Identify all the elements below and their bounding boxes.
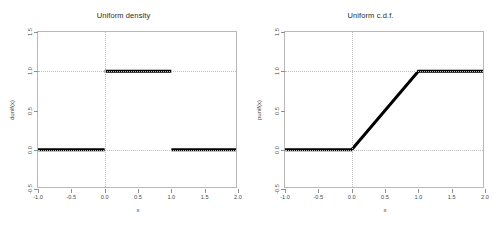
gridline-horizontal (38, 150, 236, 151)
y-axis-tick-label: 0.5 (274, 107, 280, 115)
y-axis-title: punif(x) (256, 100, 262, 120)
x-axis-tick (418, 189, 419, 193)
y-axis-tick-label: 1.5 (274, 28, 280, 36)
x-axis-tick-label: -1.0 (33, 194, 43, 200)
y-axis-tick-label: 0.0 (27, 146, 33, 154)
x-axis-tick (352, 189, 353, 193)
x-axis-tick (138, 189, 139, 193)
x-axis-tick-label: 2.0 (234, 194, 242, 200)
x-axis-tick-label: 2.0 (481, 194, 489, 200)
y-axis-tick-label: 1.0 (27, 67, 33, 75)
x-axis-tick (105, 189, 106, 193)
y-axis-tick (34, 71, 38, 72)
y-axis-tick (281, 71, 285, 72)
y-axis-tick-label: -0.5 (27, 184, 33, 194)
y-axis-tick-label: 0.5 (27, 107, 33, 115)
x-axis-tick (485, 189, 486, 193)
x-axis-tick (238, 189, 239, 193)
y-axis-tick-label: 0.0 (274, 146, 280, 154)
y-axis-title: dunif(x) (9, 100, 15, 120)
cdf-polyline (285, 71, 483, 150)
gridline-horizontal (285, 71, 483, 72)
x-axis-title: x (285, 207, 485, 213)
y-axis-tick (34, 32, 38, 33)
gridline-horizontal (38, 71, 236, 72)
gridline-vertical (352, 32, 353, 187)
x-axis-title: x (38, 207, 238, 213)
x-axis-tick (452, 189, 453, 193)
y-axis-tick (34, 150, 38, 151)
x-axis-tick-label: 0.5 (134, 194, 142, 200)
plot-frame-density: -1.0-0.50.00.51.01.52.0-0.50.00.51.01.5x… (37, 31, 237, 188)
x-axis-tick-label: 1.5 (448, 194, 456, 200)
uniform-density-panel: Uniform density -1.0-0.50.00.51.01.52.0-… (0, 0, 247, 226)
y-axis-tick-label: -0.5 (274, 184, 280, 194)
x-axis-tick (385, 189, 386, 193)
x-axis-tick-label: 0.0 (348, 194, 356, 200)
x-axis-tick-label: -0.5 (67, 194, 77, 200)
density-data-layer (38, 32, 236, 187)
y-axis-tick (34, 111, 38, 112)
y-axis-tick-label: 1.5 (27, 28, 33, 36)
page-title-cdf: Uniform c.d.f. (247, 11, 494, 20)
x-axis-tick-label: 0.0 (101, 194, 109, 200)
plot-area-cdf (285, 32, 483, 187)
y-axis-tick (281, 111, 285, 112)
x-axis-tick (205, 189, 206, 193)
x-axis-tick-label: 1.0 (414, 194, 422, 200)
x-axis-tick (171, 189, 172, 193)
uniform-cdf-panel: Uniform c.d.f. -1.0-0.50.00.51.01.52.0-0… (247, 0, 494, 226)
y-axis-tick (281, 189, 285, 190)
x-axis-tick-label: -1.0 (280, 194, 290, 200)
y-axis-tick-label: 1.0 (274, 67, 280, 75)
x-axis-tick (38, 189, 39, 193)
x-axis-tick-label: 1.5 (201, 194, 209, 200)
y-axis-tick (34, 189, 38, 190)
x-axis-tick (71, 189, 72, 193)
y-axis-tick (281, 32, 285, 33)
x-axis-tick-label: 0.5 (381, 194, 389, 200)
x-axis-tick (285, 189, 286, 193)
x-axis-tick (318, 189, 319, 193)
y-axis-tick (281, 150, 285, 151)
plot-frame-cdf: -1.0-0.50.00.51.01.52.0-0.50.00.51.01.5x… (284, 31, 484, 188)
gridline-vertical (105, 32, 106, 187)
x-axis-tick-label: -0.5 (314, 194, 324, 200)
cdf-data-layer (285, 32, 483, 187)
plot-area-density (38, 32, 236, 187)
x-axis-tick-label: 1.0 (167, 194, 175, 200)
gridline-horizontal (285, 150, 483, 151)
page-title-density: Uniform density (0, 11, 247, 20)
